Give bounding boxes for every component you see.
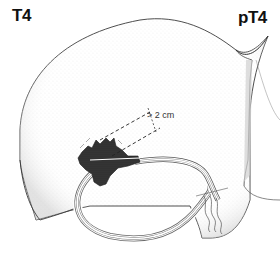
figure-canvas: T4 pT4 > 2 cm xyxy=(0,0,280,260)
anatomy-illustration xyxy=(0,0,280,260)
organ-body xyxy=(20,19,268,238)
stage-label-pt4: pT4 xyxy=(238,8,267,28)
measurement-label: > 2 cm xyxy=(147,110,174,120)
stage-label-t4: T4 xyxy=(12,6,31,26)
